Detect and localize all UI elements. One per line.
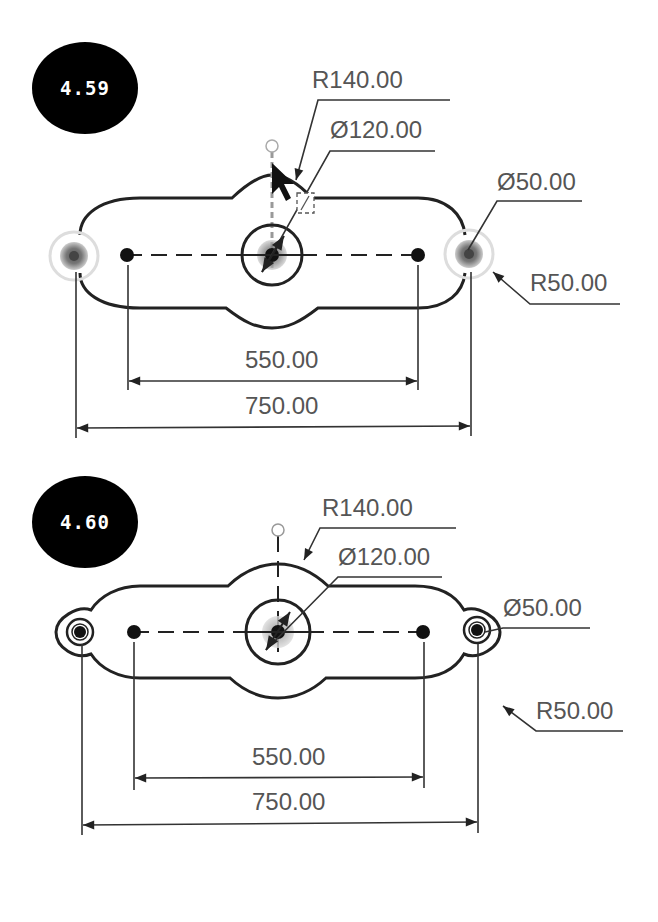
d120-leader (266, 577, 442, 650)
dimension-d50[interactable]: Ø50.00 (503, 594, 582, 621)
dimension-d120[interactable]: Ø120.00 (338, 543, 430, 570)
d50-leader (468, 201, 582, 250)
right-point[interactable] (416, 625, 430, 639)
dimension-r50[interactable]: R50.00 (536, 697, 613, 724)
right-point[interactable] (411, 248, 425, 262)
dimension-line-750 (77, 426, 470, 428)
sketch-canvas[interactable]: R140.00 Ø120.00 Ø50.00 R50.00 550.00 750… (0, 0, 658, 460)
dimension-d50[interactable]: Ø50.00 (497, 168, 576, 195)
sketch-canvas[interactable]: R140.00 Ø120.00 Ø50.00 R50.00 550.00 750… (0, 460, 658, 922)
vertical-constraint-handle-icon[interactable] (272, 524, 284, 536)
left-point[interactable] (120, 248, 134, 262)
right-end-hole[interactable] (464, 617, 490, 643)
d120-leader (262, 151, 435, 272)
dimension-550[interactable]: 550.00 (252, 743, 325, 770)
dimension-r140[interactable]: R140.00 (312, 66, 403, 93)
left-end-hole[interactable] (67, 619, 93, 645)
dimension-550[interactable]: 550.00 (245, 346, 318, 373)
figure-4-59: 4.59 (0, 0, 658, 460)
dimension-line-550 (135, 777, 423, 778)
mouse-cursor-icon (272, 163, 314, 213)
dimension-r140[interactable]: R140.00 (322, 494, 413, 521)
dimension-750[interactable]: 750.00 (252, 788, 325, 815)
left-point[interactable] (127, 625, 141, 639)
dimension-d120[interactable]: Ø120.00 (330, 116, 422, 143)
dimension-750[interactable]: 750.00 (245, 392, 318, 419)
left-end-hole[interactable] (50, 232, 98, 280)
dimension-line-750 (83, 822, 477, 825)
dimension-r50[interactable]: R50.00 (530, 269, 607, 296)
right-end-hole[interactable] (445, 230, 493, 278)
vertical-constraint-handle-icon[interactable] (266, 140, 278, 152)
figure-4-60: 4.60 (0, 460, 658, 922)
